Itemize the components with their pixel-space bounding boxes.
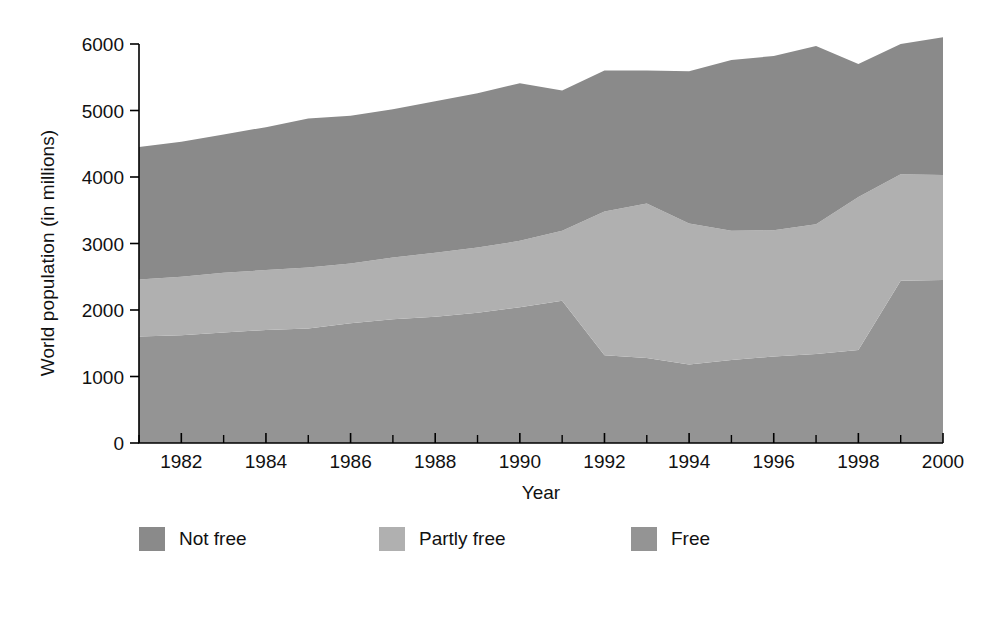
y-tick-label: 4000 [82, 167, 124, 188]
stacked-area-chart-svg: 0100020003000400050006000198219841986198… [0, 0, 1005, 520]
y-tick-label: 5000 [82, 101, 124, 122]
x-tick-label: 1994 [668, 451, 711, 472]
x-tick-label: 1992 [583, 451, 625, 472]
x-tick-label: 2000 [922, 451, 964, 472]
chart-legend: Not free Partly free Free [139, 522, 839, 562]
y-tick-label: 0 [113, 433, 124, 454]
x-tick-label: 1988 [414, 451, 456, 472]
plot-area: 0100020003000400050006000198219841986198… [0, 0, 1005, 520]
x-tick-label: 1990 [499, 451, 541, 472]
x-tick-label: 1984 [245, 451, 288, 472]
x-tick-label: 1996 [753, 451, 795, 472]
legend-item-free[interactable]: Free [631, 522, 710, 556]
legend-item-partly-free[interactable]: Partly free [379, 522, 506, 556]
x-tick-label: 1998 [837, 451, 879, 472]
legend-item-not-free[interactable]: Not free [139, 522, 247, 556]
y-tick-label: 6000 [82, 34, 124, 55]
x-tick-label: 1982 [160, 451, 202, 472]
x-axis-title: Year [139, 482, 943, 504]
legend-swatch-partly-free [379, 527, 405, 551]
y-axis-title: World population (in millions) [37, 93, 59, 413]
legend-label-partly-free: Partly free [419, 528, 506, 550]
legend-label-free: Free [671, 528, 710, 550]
legend-swatch-free [631, 527, 657, 551]
y-tick-label: 1000 [82, 367, 124, 388]
y-tick-label: 3000 [82, 234, 124, 255]
legend-swatch-not-free [139, 527, 165, 551]
y-tick-label: 2000 [82, 300, 124, 321]
legend-label-not-free: Not free [179, 528, 247, 550]
chart-figure: 0100020003000400050006000198219841986198… [0, 0, 1005, 624]
x-tick-label: 1986 [329, 451, 371, 472]
